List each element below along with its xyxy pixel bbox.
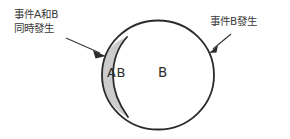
- annotation-left-line1: 事件A和B: [14, 7, 58, 21]
- annotation-left: 事件A和B 同時發生: [14, 7, 58, 35]
- region-label-ab: AB: [107, 65, 126, 80]
- diagram-canvas: 事件A和B 同時發生 事件B發生 AB B: [0, 0, 290, 139]
- arrow-left-shaft: [66, 38, 100, 53]
- annotation-right-line1: 事件B發生: [210, 14, 257, 28]
- annotation-right: 事件B發生: [210, 14, 257, 28]
- annotation-left-line2: 同時發生: [14, 21, 58, 35]
- region-label-b: B: [158, 64, 167, 80]
- arrow-right-shaft: [213, 34, 231, 49]
